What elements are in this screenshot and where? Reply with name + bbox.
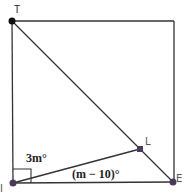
edge-bottom-IE	[13, 182, 173, 183]
label-I: I	[0, 183, 3, 194]
label-L: L	[145, 136, 151, 147]
angle-label-3m: 3m°	[26, 151, 47, 165]
label-E: E	[176, 173, 182, 184]
point-I	[10, 180, 17, 187]
angle-label-m-minus-10: (m − 10)°	[72, 167, 120, 181]
geometry-diagram: T L E I 3m° (m − 10)°	[0, 0, 182, 194]
point-L	[137, 146, 143, 152]
point-T	[9, 18, 16, 25]
label-T: T	[14, 4, 20, 15]
edge-left-TI	[12, 21, 13, 183]
